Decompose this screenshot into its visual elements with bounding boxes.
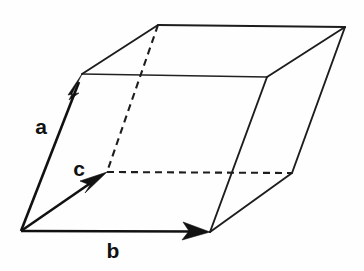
vector-c-label: c	[73, 157, 85, 180]
vector-c: c	[21, 157, 107, 231]
vector-a-arrowhead	[68, 74, 82, 100]
edge-top-right-slant	[267, 27, 345, 77]
vector-a-shaft	[21, 82, 79, 231]
parallelepiped-diagram: Crystallographic unit cell parallelepipe…	[0, 0, 364, 271]
edge-front-top	[82, 74, 267, 77]
vector-a: a	[21, 74, 82, 231]
edge-right-front-vertical	[210, 77, 267, 232]
vector-b-label: b	[107, 239, 120, 262]
hidden-edge-group	[107, 25, 292, 173]
edge-back-left-vertical-dashed	[107, 25, 158, 172]
edge-top-left-slant	[82, 25, 158, 74]
vector-a-label: a	[35, 115, 47, 138]
vector-b: b	[21, 222, 210, 262]
edge-right-back-vertical	[292, 27, 345, 173]
edge-back-bottom-dashed	[107, 172, 292, 173]
edge-bottom-right-slant	[210, 173, 292, 232]
vector-b-shaft	[21, 231, 196, 232]
unit-cell-figure: Crystallographic unit cell parallelepipe…	[0, 0, 364, 271]
edge-top-back	[158, 25, 345, 27]
